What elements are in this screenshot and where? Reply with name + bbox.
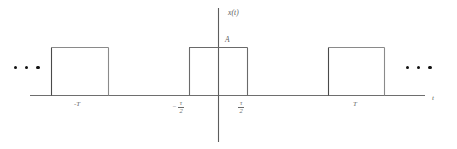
time-axis-label: t	[432, 95, 434, 102]
ellipsis-dot	[14, 66, 17, 69]
fraction-negative: τ 2	[178, 99, 184, 115]
ellipsis-dot	[428, 66, 431, 69]
pulse-right	[328, 48, 385, 96]
ellipsis-dot	[417, 66, 420, 69]
ellipsis-dot	[406, 66, 409, 69]
pulse-left	[51, 48, 109, 96]
tick-label-positive-half-pulse-width: τ 2	[238, 99, 244, 115]
tick-label-negative-period: -T	[74, 101, 80, 108]
ellipsis-left	[14, 66, 40, 69]
figure-canvas	[0, 0, 457, 149]
ellipsis-right	[406, 66, 432, 69]
tick-label-negative-half-pulse-width: − τ 2	[172, 99, 184, 115]
ellipsis-dot	[36, 66, 39, 69]
fraction-positive: τ 2	[238, 99, 244, 115]
pulse-train-figure: x(t) A t -T T − τ 2 τ 2	[0, 0, 457, 149]
tick-label-positive-period: T	[353, 101, 357, 108]
fraction-denominator: 2	[178, 108, 184, 116]
amplitude-label: A	[225, 36, 230, 44]
signal-name-label: x(t)	[228, 9, 239, 17]
fraction-numerator: τ	[178, 99, 183, 107]
fraction-denominator: 2	[238, 108, 244, 116]
fraction-numerator: τ	[238, 99, 243, 107]
ellipsis-dot	[25, 66, 28, 69]
minus-sign-glyph: −	[172, 104, 176, 111]
